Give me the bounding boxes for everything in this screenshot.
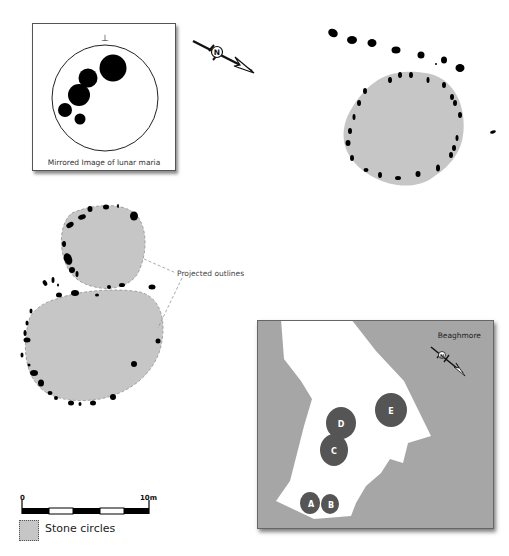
north-arrow-icon: N bbox=[190, 35, 260, 80]
label-c: C bbox=[331, 447, 337, 456]
projected-outlines-label: Projected outlines bbox=[177, 269, 244, 278]
mare-5 bbox=[75, 114, 86, 125]
beaghmore-plan: A B C D E N bbox=[258, 321, 493, 528]
svg-text:N: N bbox=[440, 353, 444, 359]
beaghmore-site-inset: Beaghmore A B C D E N bbox=[257, 320, 494, 529]
scale-bar bbox=[21, 500, 153, 516]
stone-circle-east bbox=[320, 20, 500, 190]
label-d: D bbox=[338, 420, 345, 429]
circle-area bbox=[344, 72, 464, 186]
north-label: N bbox=[214, 48, 220, 57]
mare-3 bbox=[68, 84, 90, 106]
label-e: E bbox=[388, 407, 393, 416]
legend-label-stone-circles: Stone circles bbox=[45, 522, 115, 535]
lunar-maria-caption: Mirrored Image of lunar maria bbox=[33, 158, 175, 167]
lunar-maria-diagram: ⊥ bbox=[33, 24, 175, 170]
top-marker: ⊥ bbox=[101, 33, 109, 43]
circle-area-south bbox=[25, 290, 163, 401]
label-a: A bbox=[308, 500, 315, 509]
mare-1 bbox=[100, 55, 127, 82]
mare-4 bbox=[58, 103, 72, 117]
legend-swatch-stone-circles bbox=[19, 520, 39, 541]
label-b: B bbox=[328, 501, 334, 510]
stone-circles-west bbox=[0, 195, 200, 415]
site-north-arrow-icon: N bbox=[431, 347, 465, 376]
lunar-maria-inset: ⊥ Mirrored Image of lunar maria bbox=[32, 23, 176, 171]
